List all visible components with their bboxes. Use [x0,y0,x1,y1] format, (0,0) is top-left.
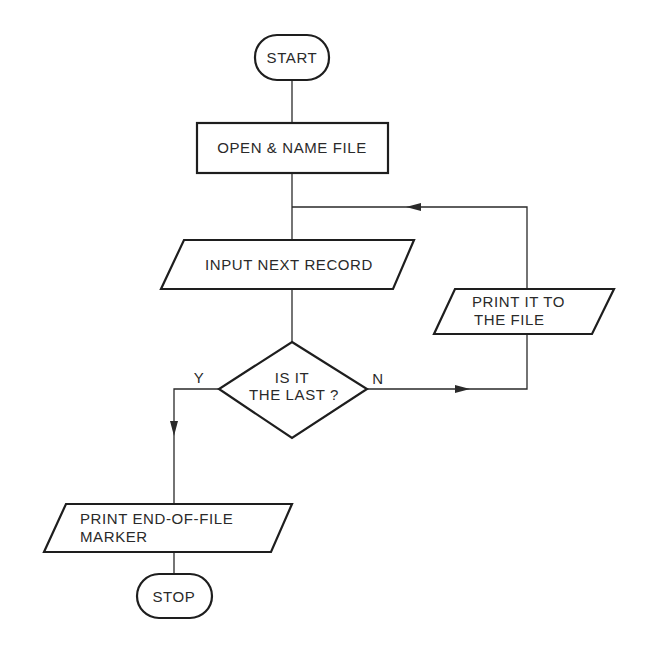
start-label: START [267,49,318,66]
print-eof-label-line1: PRINT END-OF-FILE [80,510,233,527]
open-file-process: OPEN & NAME FILE [197,123,388,173]
stop-label: STOP [153,588,196,605]
input-record-label: INPUT NEXT RECORD [205,256,373,273]
yes-branch-label: Y [194,369,205,386]
flowchart-diagram: START OPEN & NAME FILE INPUT NEXT RECORD… [0,0,650,653]
open-file-label: OPEN & NAME FILE [217,139,367,156]
decision-label-line2: THE LAST ? [249,386,339,403]
arrow-down-icon [170,421,178,436]
start-terminator: START [255,35,329,80]
input-record-io: INPUT NEXT RECORD [161,240,414,289]
decision-diamond: IS IT THE LAST ? [219,342,367,438]
print-eof-io: PRINT END-OF-FILE MARKER [44,504,292,552]
print-record-io: PRINT IT TO THE FILE [434,289,614,334]
connector-yes-branch [174,389,219,504]
stop-terminator: STOP [137,574,212,618]
connector-no-branch [367,334,527,389]
arrow-left-icon [406,203,421,211]
no-branch-label: N [372,370,383,387]
decision-label-line1: IS IT [275,369,310,386]
print-record-label-line1: PRINT IT TO [472,293,565,310]
print-record-label-line2: THE FILE [474,311,545,328]
arrow-right-icon [455,385,470,393]
print-eof-label-line2: MARKER [80,528,148,545]
